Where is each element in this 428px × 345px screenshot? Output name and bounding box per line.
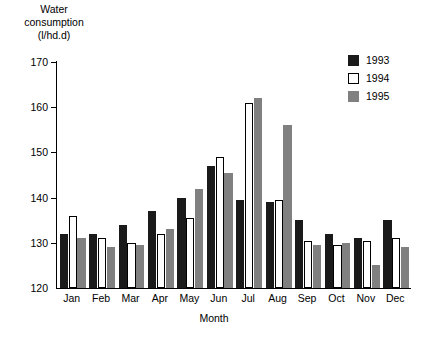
bar-1993-Aug <box>266 202 274 288</box>
bar-1994-Jun <box>216 157 224 288</box>
bar-1995-Jun <box>224 173 232 288</box>
legend-swatch-1993 <box>348 55 359 66</box>
bar-1995-Nov <box>372 265 380 288</box>
x-axis-label-jan: Jan <box>57 292 86 304</box>
bar-group <box>60 62 86 288</box>
bar-group <box>325 62 351 288</box>
bar-1993-Apr <box>148 211 156 288</box>
bar-1994-Aug <box>275 200 283 288</box>
x-axis-title: Month <box>0 312 428 324</box>
x-axis-label-aug: Aug <box>263 292 292 304</box>
bar-1993-May <box>177 198 185 288</box>
bar-group <box>207 62 233 288</box>
bar-1995-Feb <box>107 247 115 288</box>
bar-1993-Mar <box>119 225 127 288</box>
x-axis-label-sep: Sep <box>292 292 321 304</box>
bar-group <box>177 62 203 288</box>
x-axis-label-apr: Apr <box>145 292 174 304</box>
x-axis-label-may: May <box>175 292 204 304</box>
legend-label-1994: 1994 <box>366 73 389 84</box>
legend-item-1994: 1994 <box>348 70 418 86</box>
bar-1994-Sep <box>304 241 312 288</box>
legend-item-1993: 1993 <box>348 52 418 68</box>
bar-1994-Mar <box>127 243 135 288</box>
bar-1995-Jul <box>254 98 262 288</box>
bar-1993-Dec <box>383 220 391 288</box>
legend-swatch-1995 <box>348 91 359 102</box>
bar-group <box>89 62 115 288</box>
y-axis-title-line-2: consumption <box>2 16 106 29</box>
bar-1993-Jul <box>236 200 244 288</box>
x-axis-label-feb: Feb <box>86 292 115 304</box>
y-axis-title-line-3: (l/hd.d) <box>2 29 106 42</box>
y-axis-title-line-1: Water <box>2 3 106 16</box>
bar-1993-Jan <box>60 234 68 288</box>
x-axis-label-mar: Mar <box>116 292 145 304</box>
bar-1994-Jul <box>245 103 253 288</box>
bar-1993-Feb <box>89 234 97 288</box>
bar-group <box>295 62 321 288</box>
x-axis-line <box>56 288 411 289</box>
x-axis-label-nov: Nov <box>351 292 380 304</box>
bar-1993-Nov <box>354 238 362 288</box>
y-axis-tick-160: 160 <box>0 102 57 112</box>
y-axis-tick-140: 140 <box>0 193 57 203</box>
bar-group <box>266 62 292 288</box>
x-axis-label-jul: Jul <box>234 292 263 304</box>
bar-1995-Oct <box>342 243 350 288</box>
x-axis-label-dec: Dec <box>381 292 410 304</box>
legend-label-1993: 1993 <box>366 55 389 66</box>
bar-1994-Jan <box>69 216 77 288</box>
bar-1995-Apr <box>166 229 174 288</box>
y-axis-title: Water consumption (l/hd.d) <box>2 3 106 42</box>
bar-1995-Dec <box>401 247 409 288</box>
y-axis-tick-label: 160 <box>18 102 48 112</box>
bar-1993-Sep <box>295 220 303 288</box>
legend-swatch-1994 <box>348 73 359 84</box>
legend-item-1995: 1995 <box>348 88 418 104</box>
bar-1993-Oct <box>325 234 333 288</box>
x-axis-label-jun: Jun <box>204 292 233 304</box>
water-consumption-bar-chart: Water consumption (l/hd.d) 1201301401501… <box>0 0 428 345</box>
y-axis-tick-label: 130 <box>18 238 48 248</box>
bar-1994-May <box>186 218 194 288</box>
y-axis-tick-label: 170 <box>18 57 48 67</box>
bar-1995-May <box>195 189 203 288</box>
bar-1995-Sep <box>313 245 321 288</box>
y-axis-tick-label: 120 <box>18 283 48 293</box>
bar-1995-Aug <box>283 125 291 288</box>
chart-legend: 1993 1994 1995 <box>348 52 418 106</box>
y-axis-tick-130: 130 <box>0 238 57 248</box>
y-axis-tick-150: 150 <box>0 147 57 157</box>
bar-group <box>119 62 145 288</box>
bar-1994-Dec <box>392 238 400 288</box>
bar-1995-Mar <box>136 245 144 288</box>
bar-1994-Apr <box>157 234 165 288</box>
bar-1994-Nov <box>363 241 371 288</box>
y-axis-tick-label: 150 <box>18 147 48 157</box>
bar-group <box>236 62 262 288</box>
bar-1994-Feb <box>98 238 106 288</box>
bar-group <box>148 62 174 288</box>
y-axis-tick-120: 120 <box>0 283 57 293</box>
bar-1993-Jun <box>207 166 215 288</box>
y-axis-tick-170: 170 <box>0 57 57 67</box>
bar-1995-Jan <box>77 238 85 288</box>
legend-label-1995: 1995 <box>366 91 389 102</box>
bar-1994-Oct <box>333 245 341 288</box>
y-axis-tick-label: 140 <box>18 193 48 203</box>
x-axis-label-oct: Oct <box>322 292 351 304</box>
